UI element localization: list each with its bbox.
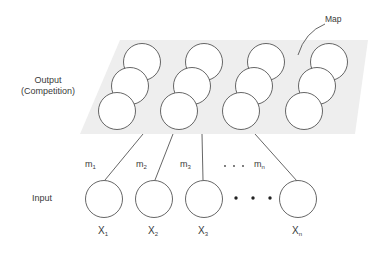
weight-connections [105, 134, 297, 181]
input-sub: 1 [105, 231, 108, 237]
weight-label-mn: mn [254, 159, 265, 173]
weight-sub: n [262, 164, 265, 170]
input-label-x3: X3 [198, 225, 208, 240]
output-label: Output (Competition) [21, 75, 75, 97]
input-neurons [86, 181, 317, 218]
weight-label-m3: m3 [180, 159, 191, 173]
input-ellipsis-icon [234, 196, 271, 199]
weight-sub: 1 [93, 164, 96, 170]
input-base: X [198, 225, 205, 236]
connection-mn [255, 134, 297, 181]
input-label-x2: X2 [148, 225, 158, 240]
output-neuron [99, 93, 136, 130]
connection-m2 [155, 134, 173, 180]
weight-label-m1: m1 [85, 159, 96, 173]
input-label: Input [32, 193, 52, 204]
connection-m1 [105, 134, 143, 180]
weight-sub: 3 [188, 164, 191, 170]
weight-base: m [85, 159, 93, 169]
weight-ellipsis-icon [224, 165, 244, 167]
weight-base: m [180, 159, 188, 169]
connection-m3 [202, 134, 203, 180]
input-sub: 2 [155, 231, 158, 237]
weight-base: m [254, 159, 262, 169]
input-sub: 3 [205, 231, 208, 237]
weight-label-m2: m2 [136, 159, 147, 173]
weight-base: m [136, 159, 144, 169]
input-sub: n [299, 231, 302, 237]
som-diagram [0, 0, 375, 255]
weight-sub: 2 [144, 164, 147, 170]
input-base: X [98, 225, 105, 236]
map-label: Map [325, 14, 342, 25]
input-neuron-x3 [186, 181, 223, 218]
input-neuron-xn [280, 181, 317, 218]
input-label-xn: Xn [292, 225, 302, 240]
input-neuron-x1 [86, 181, 123, 218]
input-label-x1: X1 [98, 225, 108, 240]
output-label-line2: (Competition) [21, 86, 75, 97]
output-neuron [286, 93, 323, 130]
input-base: X [292, 225, 299, 236]
input-base: X [148, 225, 155, 236]
output-neuron [161, 93, 198, 130]
input-neuron-x2 [136, 181, 173, 218]
output-label-line1: Output [21, 75, 75, 86]
output-neuron [223, 93, 260, 130]
